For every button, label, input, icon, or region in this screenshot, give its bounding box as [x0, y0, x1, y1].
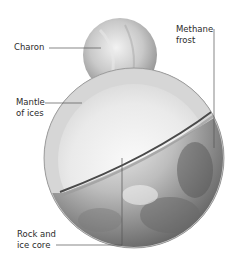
methane-frost-label: Methane frost [176, 24, 213, 46]
pluto-sphere [30, 60, 230, 248]
charon-label: Charon [14, 42, 44, 53]
pluto-diagram: Charon Mantle of ices Methane frost Rock… [0, 0, 237, 260]
core-label: Rock and ice core [17, 229, 56, 251]
mantle-label: Mantle of ices [16, 97, 45, 119]
